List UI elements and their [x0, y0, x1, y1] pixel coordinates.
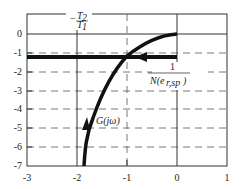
- t-ratio-label: − T 2 T 1: [70, 10, 88, 32]
- up-arrow-icon: [82, 117, 90, 130]
- svg-text:-3: -3: [23, 172, 31, 183]
- svg-text:-7: -7: [14, 160, 22, 171]
- svg-text:1: 1: [170, 61, 175, 72]
- svg-text:−: −: [70, 13, 76, 24]
- g-jw-label: G(jω): [96, 115, 120, 127]
- y-tick-labels: 0 -1 -2 -3 -4 -5 -6 -7: [14, 28, 22, 171]
- x-tick-labels: -3 -2 -1 0 1: [23, 172, 230, 183]
- svg-text:): ): [182, 75, 187, 87]
- g-jw-curve: [84, 34, 177, 166]
- svg-text:-2: -2: [14, 66, 22, 77]
- svg-text:-3: -3: [14, 85, 22, 96]
- svg-text:-5: -5: [14, 122, 22, 133]
- svg-text:0: 0: [175, 172, 180, 183]
- left-arrow-icon: [135, 52, 147, 62]
- svg-text:0: 0: [17, 28, 22, 39]
- svg-text:r,sp: r,sp: [166, 77, 180, 88]
- svg-text:-2: -2: [73, 172, 81, 183]
- svg-text:1: 1: [225, 172, 230, 183]
- svg-text:-1: -1: [14, 47, 22, 58]
- svg-text:N(e: N(e: [149, 75, 165, 87]
- svg-text:1: 1: [82, 21, 87, 32]
- svg-text:-1: -1: [123, 172, 131, 183]
- nyquist-plot: 0 -1 -2 -3 -4 -5 -6 -7 -3 -2 -1 0 1 − T …: [0, 0, 242, 189]
- svg-text:-6: -6: [14, 141, 22, 152]
- svg-text:-4: -4: [14, 103, 22, 114]
- inverse-n-label: 1 N(e r,sp ): [148, 61, 208, 90]
